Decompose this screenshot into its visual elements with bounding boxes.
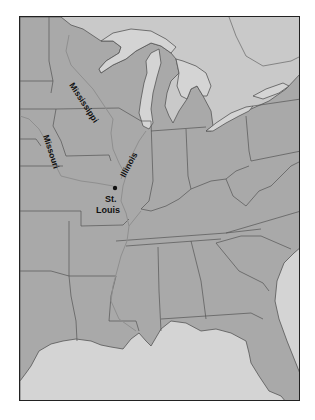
st-louis-marker	[113, 186, 117, 190]
st-louis-label-line1: St.	[105, 194, 117, 204]
st-louis-label-line2: Louis	[96, 205, 120, 215]
map-frame: Mississippi Missouri Illinois St. Louis	[19, 16, 300, 401]
map-canvas: Mississippi Missouri Illinois St. Louis	[20, 17, 300, 401]
